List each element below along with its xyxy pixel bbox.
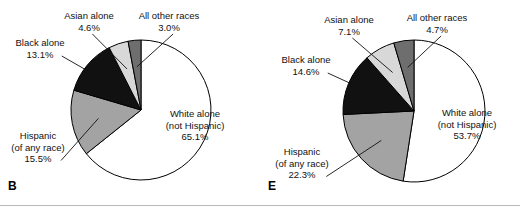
panel-letter-b: B — [8, 180, 17, 192]
label-hispanic-b: Hispanic(of any race)15.5% — [2, 130, 74, 165]
label-line: Hispanic — [20, 130, 56, 141]
label-line: (not Hispanic) — [166, 120, 225, 131]
label-black-alone-b: Black alone13.1% — [6, 37, 74, 60]
label-line: Asian alone — [64, 10, 114, 21]
label-line: Black alone — [281, 54, 330, 65]
bottom-divider — [0, 205, 520, 206]
label-line: White alone — [442, 107, 492, 118]
label-line: White alone — [170, 108, 220, 119]
label-line: Hispanic — [284, 146, 320, 157]
label-line: 14.6% — [293, 66, 320, 77]
label-line: Asian alone — [324, 14, 374, 25]
label-hispanic-e: Hispanic(of any race)22.3% — [264, 146, 340, 181]
label-line: 4.7% — [426, 24, 448, 35]
label-white-alone-e: White alone(not Hispanic)53.7% — [424, 107, 510, 142]
label-line: All other races — [139, 10, 200, 21]
label-line: (of any race) — [11, 142, 64, 153]
label-line: 65.1% — [182, 131, 209, 142]
label-line: 22.3% — [289, 169, 316, 180]
label-line: All other races — [407, 12, 468, 23]
label-line: Black alone — [15, 37, 64, 48]
label-line: (not Hispanic) — [438, 119, 497, 130]
label-all-other-races-b: All other races3.0% — [128, 10, 210, 33]
label-white-alone-b: White alone(not Hispanic)65.1% — [152, 108, 238, 143]
label-line: 15.5% — [25, 153, 52, 164]
label-all-other-races-e: All other races4.7% — [396, 12, 478, 35]
label-asian-alone-e: Asian alone7.1% — [315, 14, 383, 37]
label-line: 3.0% — [158, 22, 180, 33]
pie-slice — [343, 111, 414, 181]
label-line: 7.1% — [338, 26, 360, 37]
label-line: 4.6% — [78, 22, 100, 33]
figure-two-pie-charts: Asian alone4.6% All other races3.0% Blac… — [0, 0, 520, 211]
label-line: 53.7% — [454, 130, 481, 141]
label-black-alone-e: Black alone14.6% — [272, 54, 340, 77]
label-line: 13.1% — [27, 49, 54, 60]
panel-letter-e: E — [268, 180, 276, 192]
label-asian-alone-b: Asian alone4.6% — [55, 10, 123, 33]
label-line: (of any race) — [275, 158, 328, 169]
